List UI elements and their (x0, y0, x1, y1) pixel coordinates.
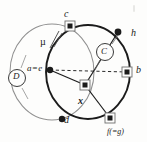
label-point-a-equals-e: a=e (27, 64, 42, 73)
geometry-figure: c h b a=e x d f(=g) µ C D (0, 0, 147, 142)
label-point-d: d (64, 115, 69, 125)
label-mu: µ (40, 37, 46, 47)
mu-leader-line (50, 31, 62, 48)
point-marker-ae (47, 67, 53, 73)
label-point-c: c (64, 9, 68, 19)
label-point-f-equals-g: f(=g) (107, 128, 124, 136)
label-point-b: b (136, 65, 141, 75)
corner-speck (133, 5, 135, 12)
point-marker-c (65, 21, 75, 31)
point-marker-h (115, 29, 122, 36)
label-point-x: x (78, 96, 83, 106)
point-marker-b (122, 67, 132, 77)
label-circle-D: D (13, 72, 20, 81)
diagram-canvas (0, 0, 147, 142)
point-marker-f (105, 113, 115, 123)
point-marker-x (80, 80, 90, 90)
label-point-h: h (131, 28, 136, 38)
label-circle-C: C (101, 47, 107, 56)
segment-ae-to-b (50, 70, 127, 72)
